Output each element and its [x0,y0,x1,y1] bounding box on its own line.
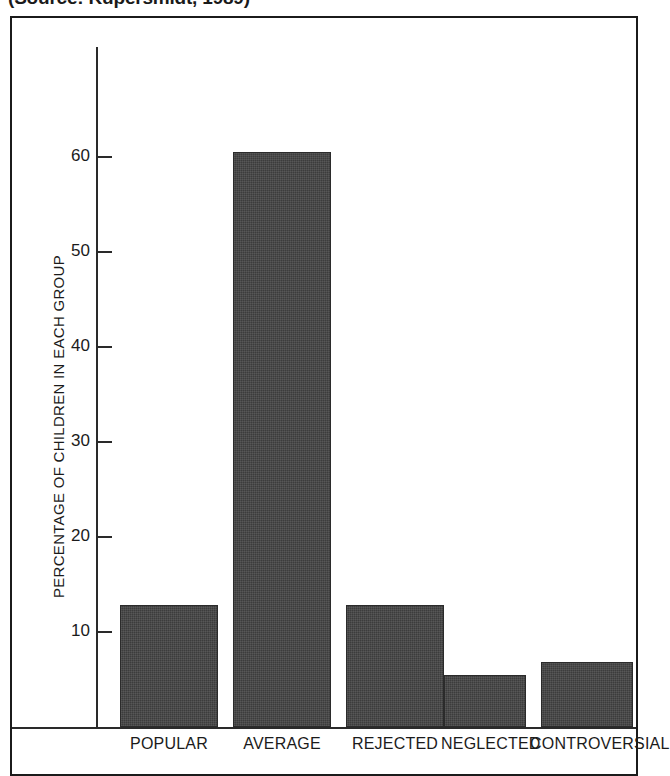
bar-neglected [444,675,526,727]
y-tick-mark-50 [98,251,112,253]
bar-rejected [346,605,444,727]
y-tick-label-10: 10 [40,621,90,641]
y-axis-line [96,47,98,729]
x-label-average: AVERAGE [233,735,331,753]
bar-controversial [541,662,633,727]
y-tick-mark-10 [98,631,112,633]
x-label-controversial: CONTROVERSIAL [530,735,648,753]
x-axis-line [12,727,636,729]
y-tick-label-50: 50 [40,241,90,261]
y-tick-mark-40 [98,346,112,348]
x-label-neglected: NEGLECTED [441,735,539,753]
bar-average [233,152,331,727]
y-tick-label-60: 60 [40,146,90,166]
x-label-popular: POPULAR [120,735,218,753]
y-tick-label-30: 30 [40,431,90,451]
y-tick-mark-20 [98,536,112,538]
y-tick-mark-30 [98,441,112,443]
y-tick-label-40: 40 [40,336,90,356]
y-axis-label: PERCENTAGE OF CHILDREN IN EACH GROUP [50,192,67,662]
x-label-rejected: REJECTED [346,735,444,753]
bar-popular [120,605,218,727]
y-tick-label-20: 20 [40,526,90,546]
y-tick-mark-60 [98,156,112,158]
